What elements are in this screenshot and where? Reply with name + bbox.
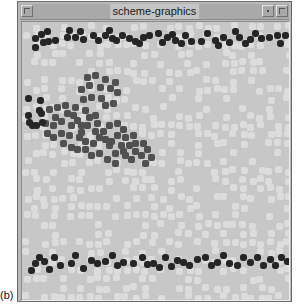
- cluster-particle: [106, 122, 113, 129]
- cluster-particle: [58, 130, 65, 137]
- light-particle: [193, 202, 200, 209]
- light-particle: [88, 22, 95, 29]
- light-particle: [275, 130, 282, 137]
- light-particle: [159, 149, 166, 156]
- light-particle: [151, 232, 158, 239]
- light-particle: [133, 295, 140, 301]
- light-particle: [240, 267, 247, 274]
- light-particle: [123, 285, 130, 292]
- light-particle: [142, 211, 149, 218]
- light-particle: [204, 295, 211, 301]
- cluster-particle: [104, 156, 111, 163]
- cluster-particle: [114, 132, 121, 139]
- light-particle: [133, 77, 140, 84]
- light-particle: [33, 150, 40, 157]
- light-particle: [275, 123, 282, 130]
- light-particle: [285, 114, 290, 121]
- cluster-particle: [112, 150, 119, 157]
- light-particle: [113, 112, 120, 119]
- light-particle: [142, 42, 149, 49]
- dark-particle: [146, 32, 153, 39]
- light-particle: [106, 68, 113, 75]
- cluster-particle: [44, 130, 51, 137]
- title-bar[interactable]: scheme-graphics: [20, 4, 289, 20]
- light-particle: [149, 77, 156, 84]
- light-particle: [67, 213, 74, 220]
- light-particle: [229, 221, 236, 228]
- light-particle: [232, 294, 239, 301]
- light-particle: [177, 176, 184, 183]
- light-particle: [277, 193, 284, 200]
- light-particle: [168, 187, 175, 194]
- minimize-icon[interactable]: [262, 5, 274, 17]
- light-particle: [113, 274, 120, 281]
- light-particle: [22, 238, 29, 245]
- light-particle: [202, 284, 209, 291]
- light-particle: [268, 196, 275, 203]
- light-particle: [175, 70, 182, 77]
- light-particle: [212, 247, 219, 254]
- light-particle: [212, 175, 219, 182]
- light-particle: [69, 159, 76, 166]
- light-particle: [284, 140, 290, 147]
- light-particle: [32, 132, 39, 139]
- light-particle: [114, 67, 121, 74]
- dark-particle: [266, 34, 273, 41]
- dark-particle: [39, 119, 46, 126]
- light-particle: [175, 23, 182, 30]
- cluster-particle: [62, 102, 69, 109]
- window-menu-icon[interactable]: [21, 5, 33, 17]
- light-particle: [229, 130, 236, 137]
- dark-particle: [234, 262, 241, 269]
- light-particle: [256, 58, 263, 65]
- cluster-particle: [82, 107, 89, 114]
- light-particle: [103, 114, 110, 121]
- cluster-particle: [98, 95, 105, 102]
- light-particle: [141, 268, 148, 275]
- light-particle: [95, 221, 102, 228]
- light-particle: [232, 239, 239, 246]
- light-particle: [230, 184, 237, 191]
- cluster-particle: [122, 134, 129, 141]
- light-particle: [211, 133, 218, 140]
- dark-particle: [214, 259, 221, 266]
- light-particle: [76, 79, 83, 86]
- light-particle: [220, 230, 227, 237]
- light-particle: [249, 223, 256, 230]
- light-particle: [257, 42, 264, 49]
- light-particle: [247, 124, 254, 131]
- dark-particle: [44, 28, 51, 35]
- cluster-particle: [114, 89, 121, 96]
- light-particle: [61, 148, 68, 155]
- light-particle: [33, 87, 40, 94]
- graphics-canvas[interactable]: [21, 21, 290, 301]
- light-particle: [284, 205, 290, 212]
- light-particle: [268, 131, 275, 138]
- light-particle: [51, 293, 58, 300]
- maximize-icon[interactable]: [276, 5, 288, 17]
- light-particle: [59, 195, 66, 202]
- dark-particle: [274, 32, 281, 39]
- dark-particle: [188, 38, 195, 45]
- cluster-particle: [80, 96, 87, 103]
- light-particle: [41, 76, 48, 83]
- light-particle: [78, 169, 85, 176]
- dark-particle: [68, 260, 75, 267]
- light-particle: [276, 186, 283, 193]
- figure-caption: (b): [0, 289, 13, 301]
- light-particle: [34, 266, 41, 273]
- light-particle: [158, 160, 165, 167]
- dark-particle: [178, 40, 185, 47]
- light-particle: [25, 157, 32, 164]
- cluster-particle: [66, 132, 73, 139]
- dark-particle: [136, 40, 143, 47]
- light-particle: [76, 59, 83, 66]
- cluster-particle: [86, 82, 93, 89]
- cluster-particle: [120, 148, 127, 155]
- cluster-particle: [132, 140, 139, 147]
- light-particle: [177, 149, 184, 156]
- light-particle: [41, 59, 48, 66]
- light-particle: [265, 295, 272, 301]
- light-particle: [250, 230, 257, 237]
- light-particle: [160, 211, 167, 218]
